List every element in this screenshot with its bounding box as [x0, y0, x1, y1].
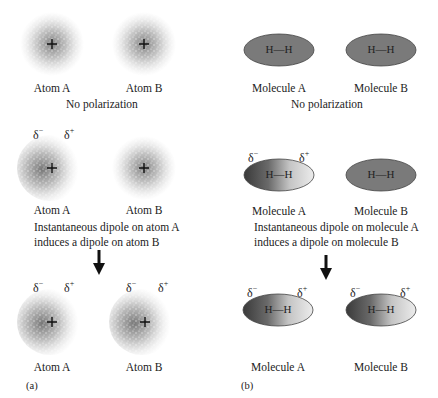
molecule-a-label-row3: Molecule A	[243, 361, 313, 373]
delta-minus-atom-a-row2: δ−	[33, 127, 43, 143]
atom-b-label-row2: Atom B	[114, 204, 174, 216]
arrow-down-icon-a	[93, 250, 105, 275]
atom-a-label-row2: Atom A	[22, 204, 82, 216]
caption-no-polarization-a: No polarization	[66, 98, 138, 110]
delta-plus-atom-a-row2: δ+	[64, 127, 74, 143]
formula-molecule-b-row2: H—H	[361, 168, 401, 180]
molecule-b-label-row1: Molecule B	[346, 82, 416, 94]
delta-minus-molecule-a-row3: δ−	[247, 285, 257, 301]
atom-b-label-row3: Atom B	[114, 361, 174, 373]
caption-instantaneous-dipole-b-line2: induces a dipole on molecule B	[254, 236, 399, 248]
delta-plus-molecule-b-row3: δ+	[400, 285, 410, 301]
delta-minus-molecule-a-row2: δ−	[248, 150, 258, 166]
formula-molecule-b-row3: H—H	[361, 303, 401, 315]
delta-minus-molecule-b-row3: δ−	[350, 285, 360, 301]
caption-instantaneous-dipole-a-line2: induces a dipole on atom B	[34, 236, 160, 248]
molecule-b-label-row3: Molecule B	[346, 361, 416, 373]
diagram-graphics	[0, 0, 438, 398]
molecule-a-label-row2: Molecule A	[244, 205, 314, 217]
delta-minus-atom-a-row3: δ−	[33, 280, 43, 296]
formula-molecule-a-row2: H—H	[259, 168, 299, 180]
delta-plus-atom-a-row3: δ+	[64, 280, 74, 296]
molecule-a-label-row1: Molecule A	[244, 82, 314, 94]
formula-molecule-a-row1: H—H	[259, 43, 299, 55]
delta-plus-atom-b-row3: δ+	[158, 280, 168, 296]
atom-a-label-row3: Atom A	[22, 361, 82, 373]
atom-a-label-row1: Atom A	[22, 82, 82, 94]
molecule-ellipses	[243, 34, 416, 326]
molecule-b-label-row2: Molecule B	[346, 205, 416, 217]
caption-no-polarization-b: No polarization	[291, 98, 363, 110]
formula-molecule-a-row3: H—H	[258, 303, 298, 315]
delta-plus-molecule-a-row2: δ+	[299, 150, 309, 166]
atom-b-label-row1: Atom B	[114, 82, 174, 94]
delta-minus-atom-b-row3: δ−	[126, 280, 136, 296]
delta-plus-molecule-a-row3: δ+	[297, 285, 307, 301]
arrow-down-icon-b	[320, 255, 332, 280]
formula-molecule-b-row1: H—H	[361, 43, 401, 55]
panel-a-tag: (a)	[26, 380, 38, 391]
caption-instantaneous-dipole-a-line1: Instantaneous dipole on atom A	[34, 221, 180, 233]
caption-instantaneous-dipole-b-line1: Instantaneous dipole on molecule A	[254, 221, 419, 233]
panel-b-tag: (b)	[241, 380, 253, 391]
